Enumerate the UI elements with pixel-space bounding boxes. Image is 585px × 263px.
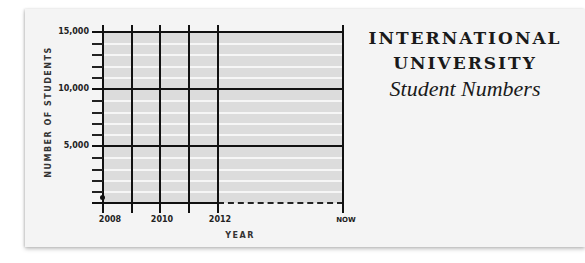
- y-tick-label-10000: 10,000: [58, 84, 89, 93]
- x-tick-label-2012: 2012: [209, 215, 231, 224]
- y-minor-tick: [92, 54, 103, 56]
- minor-gridline: [103, 191, 343, 193]
- chart-subtitle: Student Numbers: [366, 76, 564, 102]
- chart-title-line1: INTERNATIONAL: [366, 28, 564, 48]
- y-tick-label-15000: 15,000: [58, 27, 89, 36]
- x-tick-label-2010: 2010: [151, 215, 173, 224]
- x-tick-label-now: NOW: [336, 216, 356, 224]
- y-minor-tick: [92, 169, 103, 171]
- minor-gridline: [103, 123, 343, 125]
- minor-gridline: [103, 77, 343, 79]
- y-minor-tick: [92, 112, 103, 114]
- minor-gridline: [103, 112, 343, 114]
- y-minor-tick: [92, 123, 103, 125]
- y-minor-tick: [92, 77, 103, 79]
- gridline-2010: [159, 25, 161, 213]
- future-dashed-baseline: [218, 202, 343, 204]
- chart-title-line2: UNIVERSITY: [366, 53, 564, 73]
- gridline-2012: [217, 25, 219, 213]
- y-minor-tick: [92, 100, 103, 102]
- minor-gridline: [103, 54, 343, 56]
- y-axis-title: NUMBER OF STUDENTS: [44, 46, 53, 177]
- y-tick-label-5000: 5,000: [64, 141, 89, 150]
- minor-gridline: [103, 134, 343, 136]
- y-minor-tick: [92, 180, 103, 182]
- y-minor-tick: [92, 134, 103, 136]
- y-minor-tick: [92, 43, 103, 45]
- gridline-2009: [131, 25, 133, 213]
- y-minor-tick: [92, 191, 103, 193]
- gridline-2011: [188, 25, 190, 213]
- minor-gridline: [103, 157, 343, 159]
- minor-gridline: [103, 66, 343, 68]
- y-minor-tick: [92, 66, 103, 68]
- plot-area: [103, 32, 343, 203]
- minor-gridline: [103, 169, 343, 171]
- x-axis-line: [92, 202, 219, 204]
- x-tick-label-2008: 2008: [99, 215, 121, 224]
- x-axis-title: YEAR: [225, 231, 255, 240]
- minor-gridline: [103, 180, 343, 182]
- right-border-now: [342, 25, 344, 213]
- minor-gridline: [103, 43, 343, 45]
- minor-gridline: [103, 100, 343, 102]
- data-point-2008: [100, 195, 105, 200]
- y-minor-tick: [92, 157, 103, 159]
